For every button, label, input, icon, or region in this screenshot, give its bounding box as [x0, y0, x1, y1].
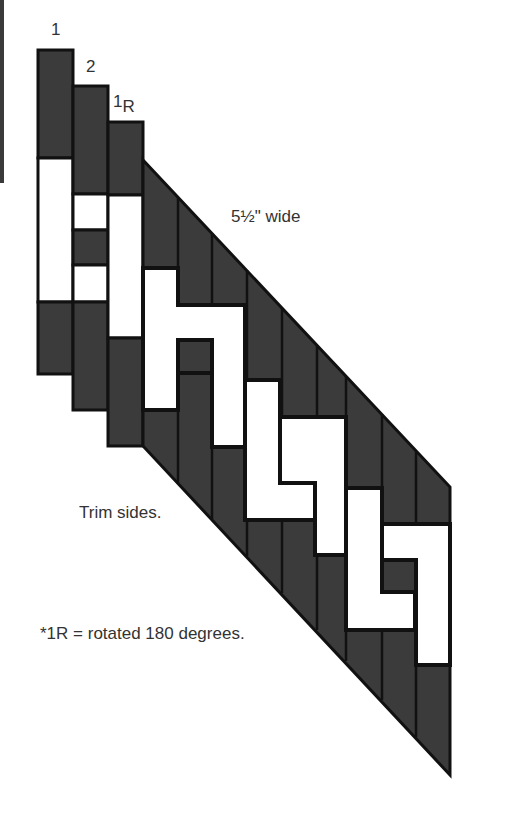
strip-1 — [38, 50, 73, 374]
strip-2 — [73, 86, 108, 410]
width-label: 5½" wide — [231, 207, 300, 227]
rotation-note: *1R = rotated 180 degrees. — [40, 624, 245, 644]
strip-label-1-text: 1 — [51, 20, 60, 39]
strip-label-1r: 1R — [113, 92, 135, 112]
quilt-strip-diagram — [0, 0, 517, 819]
strip-label-2-text: 2 — [86, 57, 95, 76]
strip-label-1r-subscript: R — [122, 97, 134, 116]
trim-note: Trim sides. — [79, 503, 162, 523]
strip-label-1: 1 — [51, 20, 60, 40]
strip-1r — [108, 122, 143, 446]
diagonal-section — [143, 160, 450, 775]
strip-label-2: 2 — [86, 57, 95, 77]
